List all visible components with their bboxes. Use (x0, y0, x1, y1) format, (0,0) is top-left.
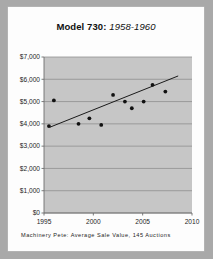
data-point (123, 100, 127, 104)
data-point (77, 122, 81, 126)
chart-footnote: Machinery Pete: Average Sale Value, 145 … (21, 232, 171, 238)
y-tick-label: $4,000 (20, 120, 41, 127)
x-tick-label: 2000 (86, 218, 101, 225)
chart-plot-area: $0$1,000$2,000$3,000$4,000$5,000$6,000$7… (8, 7, 204, 251)
chart-card: Model 730: 1958-1960 $0$1,000$2,000$3,00… (8, 7, 204, 251)
y-tick-label: $7,000 (20, 53, 41, 60)
data-point (163, 90, 167, 94)
data-point (87, 116, 91, 120)
ytick-labels-group: $0$1,000$2,000$3,000$4,000$5,000$6,000$7… (20, 53, 41, 216)
x-tick-label: 2010 (185, 218, 200, 225)
screenshot-root: Model 730: 1958-1960 $0$1,000$2,000$3,00… (0, 0, 213, 259)
scatter-chart: $0$1,000$2,000$3,000$4,000$5,000$6,000$7… (8, 7, 204, 251)
y-tick-label: $5,000 (20, 98, 41, 105)
data-point (142, 100, 146, 104)
x-tick-label: 1995 (37, 218, 52, 225)
data-point (130, 106, 134, 110)
plot-background-group (44, 57, 192, 213)
data-point (52, 99, 56, 103)
y-tick-label: $6,000 (20, 76, 41, 83)
data-point (47, 124, 51, 128)
plot-background (44, 57, 192, 213)
xtick-labels-group: 1995200020052010 (37, 218, 200, 225)
y-tick-label: $1,000 (20, 187, 41, 194)
data-point (151, 83, 155, 87)
x-tick-label: 2005 (135, 218, 150, 225)
y-tick-label: $3,000 (20, 142, 41, 149)
y-tick-label: $2,000 (20, 165, 41, 172)
data-point (99, 123, 103, 127)
data-point (111, 93, 115, 97)
y-tick-label: $0 (33, 209, 41, 216)
